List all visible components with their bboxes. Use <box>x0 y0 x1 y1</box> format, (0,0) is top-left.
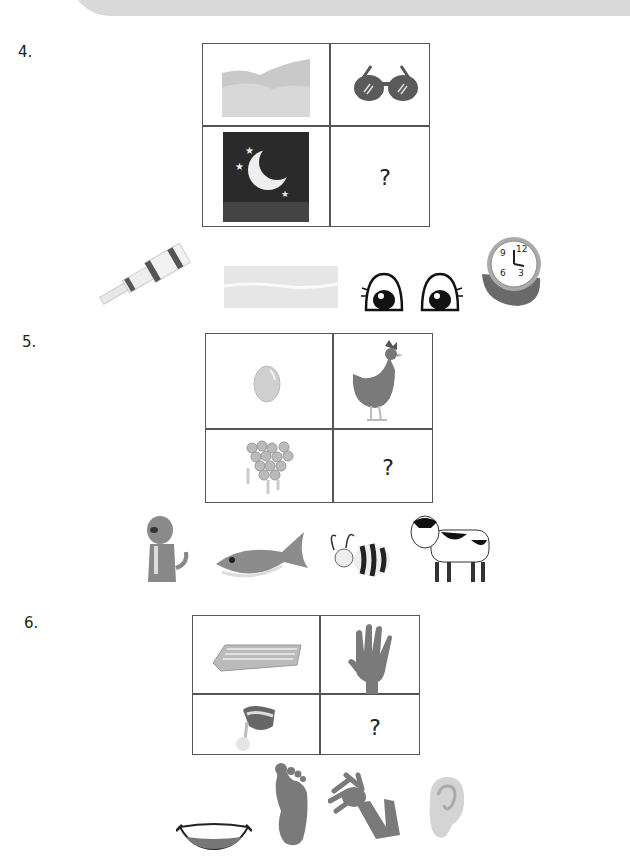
hen-image <box>349 340 407 424</box>
option-eyes[interactable] <box>360 270 464 312</box>
question-6-grid: ? <box>192 615 420 755</box>
hand-image <box>344 622 400 694</box>
option-foot[interactable] <box>271 761 313 847</box>
keyboard-image <box>211 641 303 673</box>
question-number-5: 5. <box>22 333 36 351</box>
egg-image <box>252 360 282 404</box>
option-wristwatch[interactable]: 912 63 <box>478 234 544 310</box>
svg-text:★: ★ <box>281 189 289 199</box>
option-ear[interactable] <box>424 775 468 841</box>
svg-text:12: 12 <box>516 244 527 254</box>
option-fish[interactable] <box>212 528 310 586</box>
option-cow[interactable] <box>407 510 495 588</box>
svg-text:9: 9 <box>500 248 506 258</box>
option-telescope[interactable] <box>88 238 200 310</box>
svg-text:6: 6 <box>500 268 506 278</box>
option-mouth[interactable] <box>176 821 252 851</box>
question-6-unknown: ? <box>369 715 381 740</box>
sunglasses-image <box>353 64 419 104</box>
option-dog[interactable] <box>142 514 192 588</box>
svg-text:3: 3 <box>518 268 524 278</box>
option-arm[interactable] <box>328 771 402 847</box>
question-5-grid: ? <box>205 333 433 503</box>
night-moon-image: ★ ★ ★ <box>223 132 309 222</box>
option-bee[interactable] <box>326 530 392 584</box>
question-4-grid: ★ ★ ★ ? <box>202 43 430 227</box>
svg-text:★: ★ <box>235 161 244 172</box>
question-number-6: 6. <box>24 614 38 632</box>
question-4-unknown: ? <box>379 165 391 190</box>
hand-mixer-image <box>231 700 281 752</box>
header-banner <box>70 0 630 16</box>
honeycomb-image <box>242 438 298 498</box>
option-water-waves[interactable] <box>224 266 338 308</box>
question-number-4: 4. <box>18 43 32 61</box>
question-5-unknown: ? <box>382 455 394 480</box>
svg-text:★: ★ <box>245 145 254 156</box>
sand-dunes-image <box>222 53 310 117</box>
